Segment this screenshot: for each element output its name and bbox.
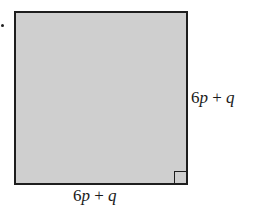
bullet-marker: [1, 24, 4, 27]
variable-q: q: [226, 88, 235, 107]
coefficient: 6: [191, 88, 200, 107]
variable-p: p: [200, 88, 209, 107]
coefficient: 6: [73, 186, 82, 205]
operator: +: [90, 186, 108, 205]
variable-p: p: [82, 186, 91, 205]
operator: +: [208, 88, 226, 107]
right-side-label: 6p + q: [191, 88, 235, 108]
right-angle-marker-icon: [174, 171, 186, 183]
bottom-side-label: 6p + q: [73, 186, 117, 206]
square-shape: [14, 11, 188, 185]
variable-q: q: [108, 186, 117, 205]
